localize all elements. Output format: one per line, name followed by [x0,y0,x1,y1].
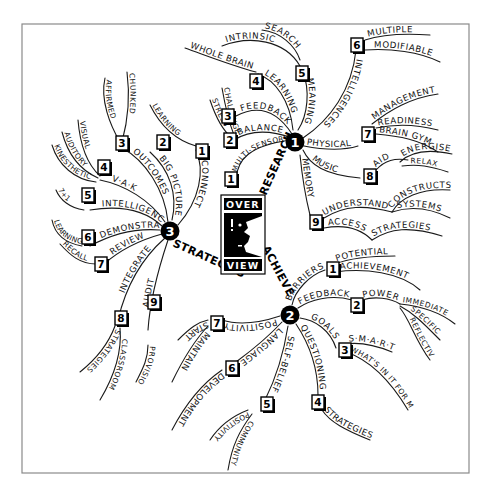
label-search: SEARCH [264,20,303,50]
number-box-strategies-9: 9 [148,295,162,311]
label-connect: CONNECT [191,160,210,210]
number-box-achieve-7: 7 [211,316,225,332]
svg-text:6: 6 [84,231,91,243]
strategies-branch-labels: CONNECT BIG PICTURE OUTCOMES V·A·K INTEL… [0,0,210,392]
label-power: POWER [361,288,400,303]
label-positivity: POSITIVITY [222,317,278,333]
svg-text:2: 2 [285,308,294,323]
label-demonstrate: DEMONSTRATE [0,0,160,240]
label-feedback-achieve: FEEDBACK [296,288,351,307]
svg-text:5: 5 [84,189,91,201]
label-physical: PHYSICAL [306,137,351,149]
svg-text:MULTIPLE: MULTIPLE [366,24,413,39]
number-box-research-8: 8 [364,169,378,185]
svg-text:POTENTIAL: POTENTIAL [334,246,388,263]
overview-center-box: OVER VIEW [221,195,265,274]
label-intrinsic: INTRINSIC [224,30,277,44]
svg-text:8: 8 [366,170,373,182]
label-energise: ENERGISE [399,141,452,158]
label-strategies-achieve: STRATEGIES [323,405,375,441]
svg-text:BALANCE: BALANCE [236,122,285,137]
number-box-strategies-3: 3 [116,136,130,152]
label-learning-connect: LEARNING [151,102,183,138]
svg-text:9: 9 [150,296,157,308]
number-box-achieve-6: 6 [226,361,240,377]
number-box-research-7: 7 [362,127,376,143]
number-box-achieve-3: 3 [339,343,353,359]
svg-text:WHOLE BRAIN: WHOLE BRAIN [189,40,255,71]
label-access: ACCESS [327,216,368,233]
label-music: MUSIC [310,153,339,174]
svg-text:QUESTIONING: QUESTIONING [298,323,327,391]
label-affirmed: AFFIRMED [104,79,118,120]
svg-text:DEVELOPMENT: DEVELOPMENT [175,371,226,429]
svg-text:MODIFIABLE: MODIFIABLE [374,39,434,58]
label-whole-brain: WHOLE BRAIN [189,40,255,71]
number-box-research-4: 4 [250,74,264,90]
label-questioning: QUESTIONING [298,323,327,391]
svg-text:LEARNING: LEARNING [151,102,183,138]
number-box-strategies-2: 2 [157,135,171,151]
svg-text:5: 5 [298,67,305,79]
svg-text:7+1: 7+1 [56,186,73,203]
number-box-achieve-4: 4 [312,395,326,411]
svg-text:AFFIRMED: AFFIRMED [104,79,118,120]
label-chunked: CHUNKED [127,72,137,114]
overview-bottom-text: VIEW [227,260,260,271]
svg-text:5: 5 [263,398,270,410]
svg-text:2: 2 [159,136,166,148]
overview-top-text: OVER [226,199,260,210]
svg-text:SEARCH: SEARCH [264,20,303,50]
label-multiple: MULTIPLE [366,24,413,39]
number-box-achieve-5: 5 [261,397,275,413]
svg-text:ENERGISE: ENERGISE [399,141,452,158]
number-box-research-6: 6 [351,38,365,54]
svg-text:7: 7 [97,258,104,270]
number-box-research-2: 2 [224,133,238,149]
svg-text:1: 1 [329,263,336,275]
svg-text:STRATEGIES: STRATEGIES [370,220,432,239]
label-potential: POTENTIAL [334,246,388,263]
svg-text:4: 4 [100,161,107,173]
svg-text:LANGUAGE: LANGUAGE [238,326,285,368]
svg-text:8: 8 [117,312,124,324]
label-systems: SYSTEMS [396,199,444,214]
label-development: DEVELOPMENT [175,371,226,429]
number-box-research-3: 3 [222,109,236,125]
svg-text:CHUNKED: CHUNKED [127,72,137,114]
number-box-achieve-1: 1 [327,262,341,278]
thinking-head-icon [224,213,262,257]
label-visual: VISUAL [78,120,93,150]
number-box-strategies-1: 1 [196,144,210,160]
label-language: LANGUAGE [238,326,285,368]
number-box-strategies-5: 5 [82,188,96,204]
mind-map: MULTI-SENSORY BALANCE FEEDBACK LEARNING … [0,0,494,498]
number-box-strategies-7: 7 [95,257,109,273]
svg-text:SYSTEMS: SYSTEMS [396,199,444,214]
svg-text:POSITIVITY: POSITIVITY [222,317,278,333]
svg-text:INTELLIGENCES: INTELLIGENCES [321,58,364,129]
svg-text:6: 6 [228,362,235,374]
svg-text:PHYSICAL: PHYSICAL [306,137,351,149]
svg-text:VISUAL: VISUAL [78,120,93,150]
svg-text:2: 2 [353,299,360,311]
label-relax: RELAX [410,156,439,168]
svg-text:MUSIC: MUSIC [310,153,339,174]
svg-text:1: 1 [198,145,205,157]
number-box-research-9: 9 [310,215,324,231]
number-box-research-5: 5 [296,66,310,82]
svg-text:FEEDBACK: FEEDBACK [296,288,351,307]
svg-text:POWER: POWER [361,288,400,303]
svg-text:MEANING: MEANING [302,77,317,126]
label-intelligences: INTELLIGENCES [321,58,364,129]
svg-text:CONNECT: CONNECT [191,160,210,210]
svg-text:6: 6 [353,39,360,51]
label-strategies-research: STRATEGIES [370,220,432,239]
svg-text:3: 3 [341,344,348,356]
svg-text:4: 4 [252,75,259,87]
number-box-strategies-6: 6 [82,230,96,246]
svg-text:V·A·K: V·A·K [111,173,139,193]
svg-text:9: 9 [312,216,319,228]
svg-text:3: 3 [118,137,125,149]
label-meaning: MEANING [302,77,317,126]
